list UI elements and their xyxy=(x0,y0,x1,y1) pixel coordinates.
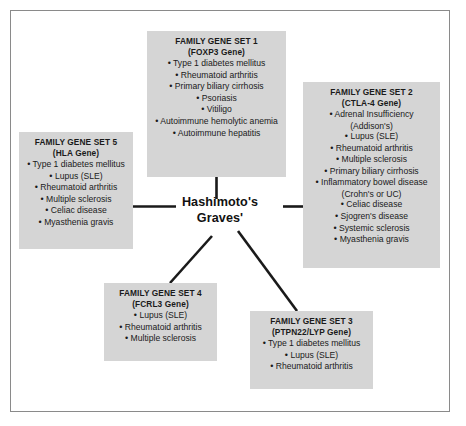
gene-set-1-item: • Rheumatoid arthritis xyxy=(153,70,280,82)
gene-set-4-box: FAMILY GENE SET 4 (FCRL3 Gene) • Lupus (… xyxy=(104,283,217,361)
gene-set-1-item: • Type 1 diabetes mellitus xyxy=(153,58,280,70)
gene-set-2-item: • Primary biliary cirrhosis xyxy=(309,166,434,178)
gene-set-4-item: • Rheumatoid arthritis xyxy=(110,322,211,334)
gene-set-2-item-label: Sjogren's disease xyxy=(340,211,408,221)
gene-set-1-item-label: Type 1 diabetes mellitus xyxy=(173,58,265,68)
gene-set-1-title: FAMILY GENE SET 1 xyxy=(153,36,280,47)
gene-set-3-item: • Rheumatoid arthritis xyxy=(256,361,367,373)
gene-set-2-item: • Celiac disease xyxy=(309,199,434,211)
gene-set-2-subtitle: (CTLA-4 Gene) xyxy=(309,98,434,109)
gene-set-5-item: • Myasthenia gravis xyxy=(25,217,127,229)
center-node-line2: Graves' xyxy=(160,210,280,226)
gene-set-4-item-label: Rheumatoid arthritis xyxy=(125,322,202,332)
gene-set-5-subtitle: (HLA Gene) xyxy=(25,148,127,159)
gene-set-2-item-label: Lupus (SLE) xyxy=(350,131,398,141)
gene-set-3-title: FAMILY GENE SET 3 xyxy=(256,316,367,327)
gene-set-2-item-label: Rheumatoid arthritis xyxy=(336,143,413,153)
gene-set-2-item-label: Adrenal Insufficiency xyxy=(334,109,413,119)
gene-set-5-item-label: Lupus (SLE) xyxy=(55,171,103,181)
gene-set-1-item-label: Rheumatoid arthritis xyxy=(181,70,258,80)
gene-set-5-title: FAMILY GENE SET 5 xyxy=(25,137,127,148)
gene-set-2-item: • Multiple sclerosis xyxy=(309,154,434,166)
gene-set-4-item-label: Multiple sclerosis xyxy=(131,333,196,343)
gene-set-4-item: • Multiple sclerosis xyxy=(110,333,211,345)
gene-set-2-item: • Inflammatory bowel disease(Crohn's or … xyxy=(309,177,434,199)
gene-set-2-item: • Myasthenia gravis xyxy=(309,234,434,246)
gene-set-5-item-label: Myasthenia gravis xyxy=(44,217,113,227)
gene-set-1-item-label: Psoriasis xyxy=(202,93,237,103)
gene-set-3-box: FAMILY GENE SET 3 (PTPN22/LYP Gene) • Ty… xyxy=(250,311,373,389)
gene-set-1-item-label: Vitiligo xyxy=(207,104,232,114)
gene-set-4-subtitle: (FCRL3 Gene) xyxy=(110,299,211,310)
gene-set-1-subtitle: (FOXP3 Gene) xyxy=(153,47,280,58)
gene-set-1-item-label: Autoimmune hepatitis xyxy=(178,128,261,138)
gene-set-1-item: • Psoriasis xyxy=(153,93,280,105)
gene-set-3-item: • Lupus (SLE) xyxy=(256,350,367,362)
gene-set-2-item-label: Multiple sclerosis xyxy=(342,154,407,164)
gene-set-2-item-label: Celiac disease xyxy=(346,199,402,209)
gene-set-2-item-label: Myasthenia gravis xyxy=(340,234,409,244)
gene-set-4-title: FAMILY GENE SET 4 xyxy=(110,288,211,299)
gene-set-1-item: • Primary biliary cirrhosis xyxy=(153,81,280,93)
diagram-canvas: FAMILY GENE SET 1 (FOXP3 Gene) • Type 1 … xyxy=(0,0,466,426)
gene-set-3-subtitle: (PTPN22/LYP Gene) xyxy=(256,327,367,338)
center-node-line1: Hashimoto's xyxy=(182,195,258,209)
gene-set-2-item-subline: (Addison's) xyxy=(309,121,434,131)
gene-set-1-box: FAMILY GENE SET 1 (FOXP3 Gene) • Type 1 … xyxy=(147,31,286,177)
gene-set-2-item: • Adrenal Insufficiency(Addison's) xyxy=(309,109,434,131)
gene-set-5-item: • Type 1 diabetes mellitus xyxy=(25,159,127,171)
gene-set-2-title: FAMILY GENE SET 2 xyxy=(309,87,434,98)
gene-set-5-item-label: Type 1 diabetes mellitus xyxy=(33,159,125,169)
gene-set-2-item: • Rheumatoid arthritis xyxy=(309,143,434,155)
gene-set-5-item: • Lupus (SLE) xyxy=(25,171,127,183)
gene-set-5-box: FAMILY GENE SET 5 (HLA Gene) • Type 1 di… xyxy=(19,132,133,249)
gene-set-1-item: • Autoimmune hemolytic anemia xyxy=(153,116,280,128)
gene-set-2-item: • Lupus (SLE) xyxy=(309,131,434,143)
gene-set-5-item: • Multiple sclerosis xyxy=(25,194,127,206)
gene-set-5-item: • Celiac disease xyxy=(25,205,127,217)
gene-set-2-item-label: Primary biliary cirrhosis xyxy=(330,166,419,176)
gene-set-3-item-label: Type 1 diabetes mellitus xyxy=(268,338,360,348)
gene-set-3-item-label: Rheumatoid arthritis xyxy=(276,361,353,371)
gene-set-2-item-label: Inflammatory bowel disease xyxy=(321,177,428,187)
gene-set-5-item-label: Multiple sclerosis xyxy=(46,194,111,204)
gene-set-4-item: • Lupus (SLE) xyxy=(110,310,211,322)
gene-set-3-item-label: Lupus (SLE) xyxy=(290,350,338,360)
gene-set-3-item: • Type 1 diabetes mellitus xyxy=(256,338,367,350)
gene-set-2-item-label: Systemic sclerosis xyxy=(339,223,410,233)
gene-set-2-item: • Sjogren's disease xyxy=(309,211,434,223)
gene-set-1-item: • Vitiligo xyxy=(153,104,280,116)
gene-set-4-item-label: Lupus (SLE) xyxy=(139,310,187,320)
gene-set-5-item-label: Celiac disease xyxy=(51,205,107,215)
gene-set-1-item-label: Primary biliary cirrhosis xyxy=(175,81,264,91)
gene-set-1-item-label: Autoimmune hemolytic anemia xyxy=(160,116,278,126)
center-node: Hashimoto's Graves' xyxy=(160,194,280,226)
gene-set-2-item-subline: (Crohn's or UC) xyxy=(309,189,434,199)
gene-set-2-box: FAMILY GENE SET 2 (CTLA-4 Gene) • Adrena… xyxy=(303,82,440,268)
gene-set-2-item: • Systemic sclerosis xyxy=(309,223,434,235)
gene-set-5-item-label: Rheumatoid arthritis xyxy=(40,182,117,192)
gene-set-1-item: • Autoimmune hepatitis xyxy=(153,128,280,140)
gene-set-5-item: • Rheumatoid arthritis xyxy=(25,182,127,194)
